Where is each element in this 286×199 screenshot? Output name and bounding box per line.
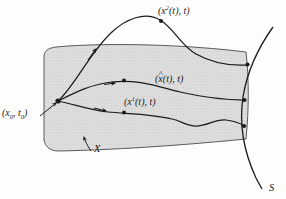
origin-suffix: )	[24, 107, 27, 118]
label-middle-trajectory: (^x(t), t)	[155, 74, 183, 84]
label-top-trajectory: (x2(t), t)	[158, 5, 190, 16]
intersection-dot-top	[245, 62, 249, 66]
label-lower-suffix: (t), t)	[135, 96, 156, 107]
label-top-prefix: (x	[158, 5, 166, 16]
label-origin-point: (x0, t0)	[2, 108, 27, 121]
label-middle-suffix: (t), t)	[163, 73, 184, 84]
label-lower-trajectory: (x1(t), t)	[124, 96, 156, 107]
label-middle-hat-group: ^x	[158, 74, 162, 84]
origin-point-dot	[55, 98, 60, 103]
intersection-dot-middle	[242, 98, 246, 102]
label-top-suffix: (t), t)	[169, 5, 190, 16]
label-curve-s: S	[269, 183, 274, 194]
origin-middle: , t	[13, 107, 21, 118]
marker-dot-lower-curve	[122, 111, 126, 115]
figure-container: (x2(t), t) (^x(t), t) (x1(t), t) (x0, t0…	[0, 0, 286, 199]
hat-accent: ^	[159, 70, 163, 79]
marker-dot-top-curve	[159, 19, 163, 23]
origin-prefix: (x	[2, 107, 10, 118]
intersection-dot-lower	[242, 124, 246, 128]
marker-dot-middle-curve	[122, 79, 126, 83]
label-surface-x: X	[94, 144, 100, 155]
label-lower-prefix: (x	[124, 96, 132, 107]
